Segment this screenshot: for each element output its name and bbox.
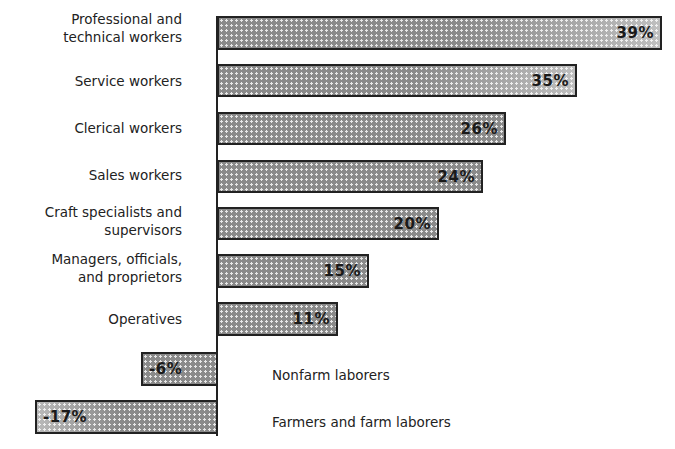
label-line: supervisors <box>45 221 182 239</box>
bar-sales: 24% <box>217 160 483 193</box>
category-label-craft: Craft specialists and supervisors <box>45 203 182 239</box>
label-line: Craft specialists and <box>45 203 182 221</box>
label-line: technical workers <box>63 28 182 46</box>
bar-professional: 39% <box>217 16 662 50</box>
label-line: Managers, officials, <box>51 250 182 268</box>
bar-value: -6% <box>149 360 182 378</box>
bar-value: 39% <box>617 24 654 42</box>
bar-farmers: -17% <box>35 400 218 434</box>
bar-clerical: 26% <box>217 112 506 145</box>
zero-axis-line <box>216 16 218 436</box>
bar-managers: 15% <box>217 254 369 288</box>
bar-value: 24% <box>438 168 475 186</box>
category-label-nonfarm: Nonfarm laborers <box>272 366 390 384</box>
bar-value: 26% <box>461 120 498 138</box>
category-label-service: Service workers <box>75 72 182 90</box>
bar-value: 11% <box>293 310 330 328</box>
label-line: Professional and <box>63 10 182 28</box>
bar-service: 35% <box>217 64 577 97</box>
bar-value: -17% <box>43 408 87 426</box>
category-label-farmers: Farmers and farm laborers <box>272 413 451 431</box>
category-label-operatives: Operatives <box>108 310 182 328</box>
bar-operatives: 11% <box>217 302 338 336</box>
bar-nonfarm: -6% <box>141 352 218 386</box>
category-label-managers: Managers, officials, and proprietors <box>51 250 182 286</box>
category-label-professional: Professional and technical workers <box>63 10 182 46</box>
category-label-clerical: Clerical workers <box>74 119 182 137</box>
category-label-sales: Sales workers <box>89 166 182 184</box>
bar-value: 20% <box>394 215 431 233</box>
bar-craft: 20% <box>217 207 439 240</box>
bar-value: 35% <box>532 72 569 90</box>
label-line: and proprietors <box>51 268 182 286</box>
bar-value: 15% <box>324 262 361 280</box>
